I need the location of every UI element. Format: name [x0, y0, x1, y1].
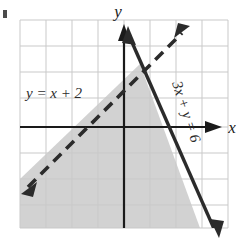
- graph-canvas: y x y = x + 2 3x + y = 6: [0, 0, 247, 244]
- y-axis-label: y: [112, 2, 122, 21]
- coordinate-graph-figure: y x y = x + 2 3x + y = 6: [0, 0, 247, 244]
- equation-label-dashed: y = x + 2: [24, 85, 83, 101]
- x-axis-label: x: [227, 118, 236, 137]
